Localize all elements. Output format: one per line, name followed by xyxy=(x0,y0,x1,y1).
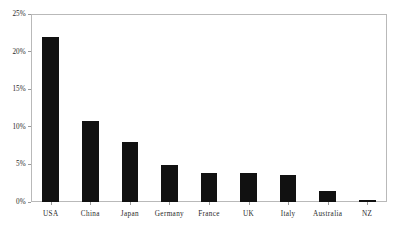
y-axis-tick-label: 15% xyxy=(12,83,31,95)
x-axis-label-uk: UK xyxy=(229,209,269,219)
bar-usa[interactable] xyxy=(42,37,59,202)
bar-japan[interactable] xyxy=(122,142,139,202)
bar-slot xyxy=(240,14,257,202)
x-axis-tick-mark xyxy=(209,202,210,205)
x-axis-tick-mark xyxy=(328,202,329,205)
bar-slot xyxy=(280,14,297,202)
x-axis-tick-mark xyxy=(51,202,52,205)
y-axis: 0%5%10%15%20%25% xyxy=(0,0,31,227)
y-axis-tick-25pct: 25% xyxy=(0,8,31,20)
x-axis-tick-mark xyxy=(130,202,131,205)
bar-slot xyxy=(122,14,139,202)
bar-slot xyxy=(319,14,336,202)
x-axis-label-australia: Australia xyxy=(308,209,348,219)
bar-germany[interactable] xyxy=(161,165,178,202)
bar-slot xyxy=(82,14,99,202)
x-axis-tick-mark xyxy=(367,202,368,205)
x-axis: USAChinaJapanGermanyFranceUKItalyAustral… xyxy=(31,202,387,227)
bar-australia[interactable] xyxy=(319,191,336,202)
y-axis-tick-20pct: 20% xyxy=(0,46,31,58)
bar-slot xyxy=(201,14,218,202)
y-axis-tick-0pct: 0% xyxy=(0,196,31,208)
bars-layer xyxy=(31,14,387,202)
y-axis-tick-label: 5% xyxy=(16,158,31,170)
x-axis-label-usa: USA xyxy=(31,209,71,219)
x-axis-tick-mark xyxy=(90,202,91,205)
y-axis-tick-label: 20% xyxy=(12,46,31,58)
x-axis-label-italy: Italy xyxy=(268,209,308,219)
bar-france[interactable] xyxy=(201,173,218,202)
x-axis-label-france: France xyxy=(189,209,229,219)
bar-slot xyxy=(161,14,178,202)
y-axis-tick-10pct: 10% xyxy=(0,121,31,133)
y-axis-tick-5pct: 5% xyxy=(0,158,31,170)
x-axis-label-japan: Japan xyxy=(110,209,150,219)
bar-slot xyxy=(42,14,59,202)
x-axis-tick-mark xyxy=(288,202,289,205)
y-axis-tick-label: 10% xyxy=(12,121,31,133)
y-axis-tick-label: 0% xyxy=(16,196,31,208)
bar-italy[interactable] xyxy=(280,175,297,202)
x-axis-label-germany: Germany xyxy=(150,209,190,219)
bar-slot xyxy=(359,14,376,202)
x-axis-label-nz: NZ xyxy=(347,209,387,219)
bar-chart: 0%5%10%15%20%25% USAChinaJapanGermanyFra… xyxy=(0,0,396,227)
x-axis-tick-mark xyxy=(169,202,170,205)
x-axis-label-china: China xyxy=(71,209,111,219)
y-axis-tick-label: 25% xyxy=(12,8,31,20)
y-axis-tick-15pct: 15% xyxy=(0,83,31,95)
bar-uk[interactable] xyxy=(240,173,257,202)
bar-china[interactable] xyxy=(82,121,99,202)
x-axis-tick-mark xyxy=(249,202,250,205)
